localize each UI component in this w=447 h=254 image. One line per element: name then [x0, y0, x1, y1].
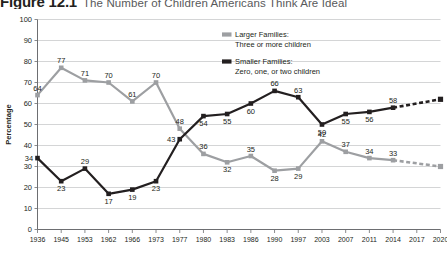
x-tick-label: 1945	[53, 236, 69, 243]
x-tick-label: 1977	[172, 236, 188, 243]
data-point-label: 66	[270, 79, 278, 88]
data-point	[201, 114, 206, 119]
y-tick-label: 60	[24, 99, 32, 108]
data-point-label: 33	[389, 149, 397, 158]
y-tick-label: 80	[24, 57, 32, 66]
data-point	[391, 105, 396, 110]
data-point	[83, 166, 88, 171]
data-point-label: 35	[247, 145, 255, 154]
data-point	[249, 101, 254, 106]
data-point-label: 58	[389, 96, 397, 105]
legend-swatch-0	[222, 32, 232, 36]
data-point	[296, 166, 301, 171]
data-point-label: 64	[33, 84, 41, 93]
data-point	[391, 158, 396, 163]
data-point	[35, 93, 40, 98]
series-line-1	[38, 91, 394, 194]
data-point	[106, 80, 111, 85]
data-point-label: 34	[25, 154, 33, 163]
data-point	[106, 192, 111, 197]
data-point-label: 19	[128, 193, 136, 202]
data-point-label: 77	[57, 56, 65, 65]
x-tick-label: 2017	[409, 236, 425, 243]
series-projection-0	[393, 160, 440, 166]
x-tick-label: 1990	[267, 236, 283, 243]
data-point-label: 17	[104, 197, 112, 206]
data-point-projected	[438, 97, 443, 102]
legend-label-title-1: Smaller Families:	[235, 57, 293, 66]
x-tick-label: 2003	[314, 236, 330, 243]
data-point	[59, 179, 64, 184]
x-tick-label: 2007	[338, 236, 354, 243]
data-point-label: 23	[152, 184, 160, 193]
data-point-label: 43	[167, 135, 175, 144]
data-point	[177, 126, 182, 131]
figure-container: Figure 12.1The Number of Children Americ…	[0, 0, 447, 254]
data-point	[367, 110, 372, 115]
data-point-label: 71	[81, 69, 89, 78]
data-point	[83, 78, 88, 83]
data-point-label: 70	[104, 71, 112, 80]
legend-label-sub-1: Zero, one, or two children	[235, 67, 320, 76]
data-point	[130, 99, 135, 104]
y-tick-label: 30	[24, 162, 32, 171]
data-point	[320, 139, 325, 144]
data-point-label: 32	[223, 165, 231, 174]
legend-label-title-0: Larger Families:	[235, 30, 289, 39]
data-point	[320, 122, 325, 127]
data-point	[35, 156, 40, 161]
x-tick-label: 1953	[77, 236, 93, 243]
y-tick-label: 10	[24, 204, 32, 213]
data-point	[201, 152, 206, 157]
x-tick-label: 1973	[148, 236, 164, 243]
data-point-label: 63	[294, 86, 302, 95]
data-point	[130, 187, 135, 192]
data-point-label: 34	[365, 147, 373, 156]
data-point-label: 37	[342, 140, 350, 149]
data-point-label: 61	[128, 90, 136, 99]
data-point	[249, 154, 254, 159]
data-point	[154, 179, 159, 184]
data-point	[225, 112, 230, 117]
data-point-label: 56	[365, 115, 373, 124]
x-tick-label: 1986	[243, 236, 259, 243]
x-tick-label: 1983	[219, 236, 235, 243]
series-line-0	[38, 68, 394, 171]
data-point-label: 55	[223, 117, 231, 126]
y-tick-label: 40	[24, 141, 32, 150]
y-tick-label: 20	[24, 183, 32, 192]
data-point	[59, 66, 64, 71]
y-tick-label: 70	[24, 78, 32, 87]
data-point-label: 28	[270, 174, 278, 183]
data-point-label: 48	[176, 117, 184, 126]
x-tick-label: 2020	[433, 236, 447, 243]
x-tick-label: 1962	[101, 236, 117, 243]
data-point-label: 70	[152, 71, 160, 80]
data-point-projected	[438, 164, 443, 169]
data-point-label: 60	[247, 107, 255, 116]
x-tick-label: 1980	[196, 236, 212, 243]
y-tick-label: 0	[28, 225, 32, 234]
data-point-label: 54	[199, 119, 207, 128]
data-point	[343, 112, 348, 117]
data-point-label: 29	[81, 157, 89, 166]
data-point	[177, 137, 182, 142]
x-tick-label: 2014	[385, 236, 401, 243]
data-point	[272, 168, 277, 173]
y-tick-label: 50	[24, 120, 32, 129]
data-point-label: 23	[57, 184, 65, 193]
x-tick-label: 1997	[290, 236, 306, 243]
data-point	[367, 156, 372, 161]
legend-label-sub-0: Three or more children	[235, 40, 311, 49]
y-tick-label: 100	[19, 15, 32, 24]
y-axis-title: Percentage	[4, 104, 13, 144]
data-point	[225, 160, 230, 165]
x-tick-label: 1966	[125, 236, 141, 243]
data-point	[154, 80, 159, 85]
x-tick-label: 1936	[30, 236, 46, 243]
line-chart: 0102030405060708090100193619451953196219…	[0, 0, 447, 254]
data-point-label: 50	[318, 128, 326, 137]
data-point-label: 36	[199, 142, 207, 151]
data-point	[296, 95, 301, 100]
x-tick-label: 2011	[362, 236, 377, 243]
